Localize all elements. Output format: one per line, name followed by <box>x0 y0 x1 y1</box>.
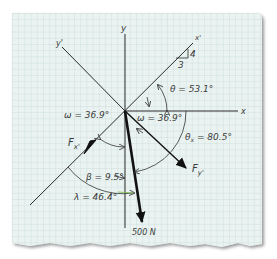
y-axis-label: y <box>120 23 127 33</box>
applied-force-label: 500 N <box>132 228 156 237</box>
x-prime-axis-label: x' <box>194 34 201 42</box>
beta-label: β = 9.5° <box>85 172 124 182</box>
graph-paper <box>12 13 262 247</box>
theta-label: θ = 53.1° <box>170 84 213 94</box>
omega-left-label: ω = 36.9° <box>64 110 109 120</box>
y-prime-axis-label: y' <box>55 39 63 48</box>
slope-rise-label: 4 <box>190 49 196 59</box>
x-axis-label: x <box>240 107 246 116</box>
lambda-label: λ = 46.4° <box>73 192 117 202</box>
slope-run-label: 3 <box>178 60 184 70</box>
omega-right-label: ω = 36.9° <box>137 113 182 123</box>
diagram-canvas: y x x' y' 4 3 Fy' Fx' 500 N θ = 53.1° ω … <box>0 0 277 259</box>
